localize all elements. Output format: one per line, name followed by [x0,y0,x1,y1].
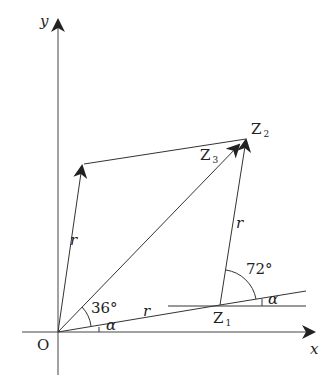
arc-36-deg [82,307,91,326]
segment-left-z2 [84,139,246,164]
angle-label-alpha-z1: α [268,292,278,307]
point-label-z1: Z1 [213,311,231,326]
diagram-canvas: y x O Z2 Z3 Z1 r r r 36° α 72° α [0,0,336,388]
angle-label-36: 36° [91,301,118,316]
point-label-z3: Z3 [200,148,218,163]
segment-label-z1z2: r [236,216,243,231]
segment-label-left-vector: r [70,233,77,248]
point-label-z2: Z2 [251,122,269,137]
diagram-svg [0,0,336,388]
y-axis-label: y [40,14,48,29]
vector-o-left [58,166,82,332]
angle-label-72: 72° [246,262,273,277]
extension-line-z1 [220,291,306,305]
origin-label: O [37,338,49,353]
angle-label-alpha-origin: α [106,318,116,333]
segment-o-z1 [58,305,220,332]
x-axis-label: x [310,342,318,357]
segment-label-oz1: r [143,304,150,319]
